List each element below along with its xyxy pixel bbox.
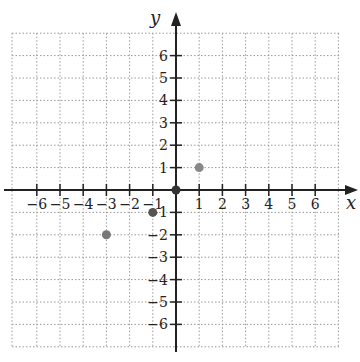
- x-tick-label: 4: [264, 196, 273, 212]
- y-tick-label: −2: [147, 227, 168, 243]
- y-tick-label: 1: [159, 160, 168, 176]
- y-tick-label: 6: [159, 48, 168, 64]
- x-tick-label: −4: [73, 196, 94, 212]
- x-tick-label: 5: [288, 196, 297, 212]
- y-tick-label: 3: [159, 115, 168, 131]
- x-tick-label: 6: [311, 196, 320, 212]
- axes: [4, 12, 358, 352]
- data-point: [102, 230, 111, 239]
- y-tick-label: −3: [147, 249, 168, 265]
- x-tick-label: −5: [50, 196, 71, 212]
- coordinate-plane: −6−5−4−3−2−1123456−6−5−4−3−2−1123456 x y: [0, 0, 360, 362]
- x-tick-label: −3: [96, 196, 117, 212]
- y-axis-arrow-icon: [171, 12, 181, 26]
- x-tick-label: −2: [119, 196, 140, 212]
- y-tick-label: −4: [147, 272, 168, 288]
- y-tick-label: 5: [159, 70, 168, 86]
- x-tick-label: 3: [241, 196, 250, 212]
- data-point: [195, 163, 204, 172]
- x-axis-label: x: [346, 192, 356, 213]
- x-tick-label: −6: [26, 196, 47, 212]
- x-tick-label: 2: [218, 196, 227, 212]
- x-tick-label: 1: [195, 196, 204, 212]
- data-point: [172, 186, 181, 195]
- data-point: [148, 208, 157, 217]
- y-tick-label: 2: [159, 137, 168, 153]
- y-tick-label: 4: [159, 92, 168, 108]
- y-tick-label: −6: [147, 316, 168, 332]
- y-axis-label: y: [149, 7, 161, 28]
- y-tick-label: −5: [147, 294, 168, 310]
